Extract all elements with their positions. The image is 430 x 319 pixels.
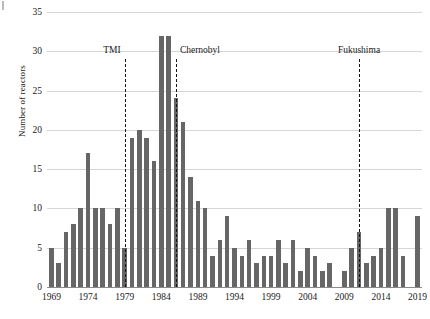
x-tick-label-2014: 2014	[371, 292, 390, 302]
x-tick-label-2019: 2019	[408, 292, 427, 302]
bar	[291, 240, 296, 287]
bar	[100, 208, 105, 287]
bar	[298, 271, 303, 287]
x-tick-label-1994: 1994	[225, 292, 244, 302]
y-tick-label-20: 20	[33, 125, 43, 135]
bar	[93, 208, 98, 287]
event-label-fukushima: Fukushima	[338, 45, 380, 55]
x-tick-label-1984: 1984	[152, 292, 171, 302]
plot-area: 05101520253035 TMIChernobylFukushima	[47, 12, 422, 287]
bar	[276, 240, 281, 287]
bar	[262, 256, 267, 287]
bar	[152, 161, 157, 287]
bar	[64, 232, 69, 287]
x-tick-label-1969: 1969	[42, 292, 61, 302]
y-tick-label-35: 35	[33, 7, 43, 17]
bar	[203, 208, 208, 287]
gridline-0: 0	[47, 287, 422, 288]
x-axis-tick-labels: 1969197419791984198919941999200420092014…	[47, 292, 422, 310]
bar	[225, 216, 230, 287]
event-line-tmi	[125, 59, 126, 287]
x-tick-label-1999: 1999	[262, 292, 281, 302]
y-axis-title: Number of reactors	[17, 31, 27, 171]
bar	[71, 224, 76, 287]
y-tick-label-10: 10	[33, 203, 43, 213]
y-tick-label-30: 30	[33, 46, 43, 56]
bar	[144, 138, 149, 287]
bar	[401, 256, 406, 287]
x-tick-label-1989: 1989	[188, 292, 207, 302]
bar	[78, 208, 83, 287]
bar	[313, 256, 318, 287]
y-tick-label-25: 25	[33, 86, 43, 96]
y-tick-label-5: 5	[37, 243, 42, 253]
bar	[364, 263, 369, 287]
x-tick-label-1974: 1974	[79, 292, 98, 302]
bar	[386, 208, 391, 287]
event-label-chernobyl: Chernobyl	[176, 45, 220, 55]
bar	[49, 248, 54, 287]
y-tick-label-0: 0	[37, 282, 42, 292]
x-tick-label-2004: 2004	[298, 292, 317, 302]
x-tick-label-1979: 1979	[115, 292, 134, 302]
bar	[327, 263, 332, 287]
bar	[269, 256, 274, 287]
bar	[166, 36, 171, 287]
bar	[320, 271, 325, 287]
bar	[240, 256, 245, 287]
bar	[247, 240, 252, 287]
bar	[283, 263, 288, 287]
bar	[254, 263, 259, 287]
bar	[159, 36, 164, 287]
nuclear-reactor-bar-chart: Number of reactors 05101520253035 TMIChe…	[0, 0, 430, 319]
event-line-fukushima	[359, 59, 360, 287]
bar	[232, 248, 237, 287]
bar	[130, 138, 135, 287]
bar	[415, 216, 420, 287]
bar	[379, 248, 384, 287]
bar	[137, 130, 142, 287]
scan-artifact	[2, 1, 4, 10]
bar	[108, 224, 113, 287]
bar	[305, 248, 310, 287]
bar	[210, 256, 215, 287]
bar	[349, 248, 354, 287]
bar	[181, 122, 186, 287]
bar	[56, 263, 61, 287]
bar	[218, 240, 223, 287]
bar	[115, 208, 120, 287]
bar	[86, 153, 91, 287]
bar	[342, 271, 347, 287]
bar	[196, 201, 201, 287]
event-label-tmi: TMI	[103, 45, 124, 55]
bar	[371, 256, 376, 287]
bar	[188, 177, 193, 287]
y-tick-label-15: 15	[33, 164, 43, 174]
event-line-chernobyl	[176, 59, 177, 287]
x-tick-label-2009: 2009	[335, 292, 354, 302]
bar	[393, 208, 398, 287]
